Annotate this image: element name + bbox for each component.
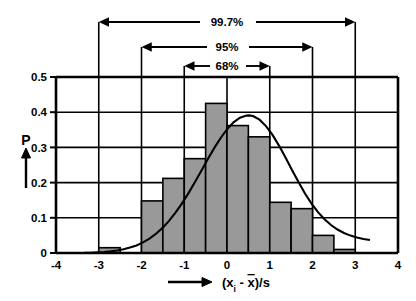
x-axis-label-minus: - [236,275,248,290]
y-tick-label: 0 [41,247,47,259]
x-tick-label: -4 [51,259,62,271]
x-axis-label-open: (x [222,275,234,290]
x-tick-label: 3 [352,259,358,271]
y-tick-label: 0.2 [31,177,47,189]
y-tick-label: 0.1 [31,212,48,224]
bar [248,137,269,253]
x-tick-label: -3 [94,259,104,271]
bar [206,103,227,253]
annotation-label: 95% [215,41,238,53]
x-axis-label-close: )/s [255,275,270,290]
y-tick-label: 0.3 [31,142,47,154]
bar [291,209,312,253]
normal-distribution-histogram-chart: 0.5 0.4 0.3 0.2 0.1 0 -4 -3 -2 -1 0 1 2 … [0,0,416,301]
bar [142,201,163,253]
x-tick-label: 1 [267,259,274,271]
x-tick-label: 0 [224,259,230,271]
x-tick-label: -1 [179,259,190,271]
bar [313,235,334,253]
x-tick-label: 2 [309,259,315,271]
x-tick-label: 4 [395,259,402,271]
y-tick-label: 0.5 [31,71,48,83]
y-tick-label: 0.4 [31,106,48,118]
annotation-label: 99.7% [211,16,244,28]
x-tick-label: -2 [136,259,146,271]
y-axis-label: P [21,132,30,148]
annotation-label: 68% [215,60,238,72]
bar [270,202,291,253]
bar [184,159,205,253]
bar [227,126,248,253]
